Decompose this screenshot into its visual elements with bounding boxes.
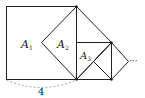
label-a3: A3	[79, 50, 91, 62]
label-a2: A2	[56, 38, 69, 51]
label-a1: A1	[20, 38, 33, 51]
side-length-label: 4	[38, 86, 44, 97]
continuation-ellipsis: ···	[129, 56, 138, 66]
nested-squares-diagram: A1 A2 A3 4 ···	[0, 0, 145, 98]
